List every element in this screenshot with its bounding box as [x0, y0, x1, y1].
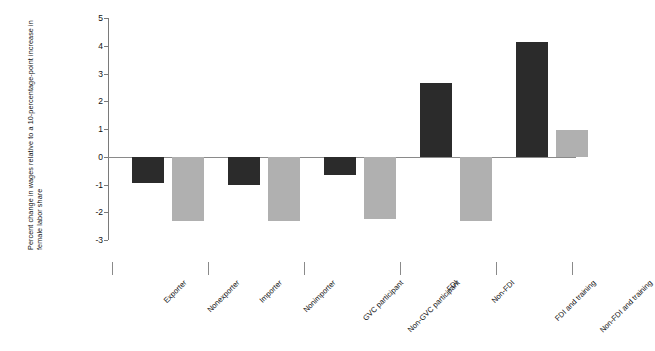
group-separator	[400, 262, 401, 275]
y-tick-mark	[104, 18, 108, 19]
group-separator	[208, 262, 209, 275]
group-separator	[496, 262, 497, 275]
y-tick-mark	[104, 157, 108, 158]
x-category-label: GVC participant	[362, 279, 406, 323]
bar	[460, 157, 492, 221]
bar	[324, 157, 356, 175]
bar	[364, 157, 396, 219]
group-separator	[572, 262, 573, 275]
y-tick-mark	[104, 46, 108, 47]
y-tick-label: -2	[77, 208, 103, 217]
bar	[132, 157, 164, 183]
y-tick-mark	[104, 74, 108, 75]
y-tick-mark	[104, 185, 108, 186]
group-separator	[304, 262, 305, 275]
x-axis-area: ExporterNonexporterImporterNonimporterGV…	[108, 262, 576, 350]
x-category-label: Nonimporter	[302, 279, 338, 315]
x-category-label: Importer	[258, 279, 284, 305]
bar	[268, 157, 300, 221]
x-category-label: Exporter	[162, 279, 188, 305]
plot-area: 543210-1-2-3	[108, 18, 576, 240]
y-tick-label: -1	[77, 180, 103, 189]
bar	[172, 157, 204, 221]
bar	[420, 83, 452, 157]
y-axis-line	[108, 18, 109, 240]
bar	[556, 130, 588, 156]
y-tick-label: 1	[77, 125, 103, 134]
y-axis-title: Percent change in wages relative to a 10…	[26, 10, 44, 250]
y-tick-mark	[104, 129, 108, 130]
y-tick-label: 4	[77, 42, 103, 51]
bar	[228, 157, 260, 185]
y-tick-label: 3	[77, 69, 103, 78]
x-category-label: Non-FDI	[490, 279, 516, 305]
bar	[516, 42, 548, 157]
y-tick-mark	[104, 212, 108, 213]
x-category-label: FDI and training	[554, 279, 598, 323]
y-tick-label: 2	[77, 97, 103, 106]
y-tick-mark	[104, 240, 108, 241]
group-separator	[112, 262, 113, 275]
y-tick-label: -3	[77, 236, 103, 245]
y-tick-mark	[104, 101, 108, 102]
x-category-label: Nonexporter	[206, 279, 242, 315]
y-tick-label: 5	[77, 14, 103, 23]
x-category-label: Non-FDI and training	[599, 279, 655, 335]
y-tick-label: 0	[77, 153, 103, 162]
